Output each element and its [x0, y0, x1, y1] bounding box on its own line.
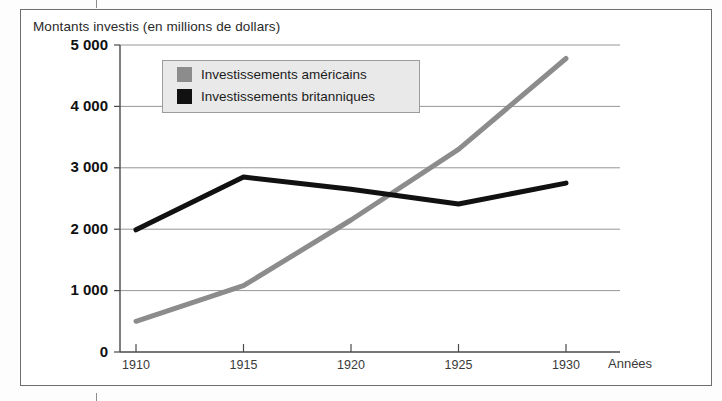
- y-tick-label-1000: 1 000: [28, 281, 108, 298]
- x-tick-label-1915: 1915: [209, 358, 279, 372]
- x-axis-title: Années: [608, 356, 652, 371]
- y-tick-label-3000: 3 000: [28, 158, 108, 175]
- y-tick-marks: [114, 45, 120, 352]
- legend-entry-americains: Investissements américains: [177, 67, 367, 82]
- chart-legend: Investissements américains Investissemen…: [162, 60, 420, 113]
- legend-entry-britanniques: Investissements britanniques: [177, 89, 375, 104]
- x-tick-label-1930: 1930: [531, 358, 601, 372]
- y-tick-label-4000: 4 000: [28, 97, 108, 114]
- y-tick-label-0: 0: [28, 343, 108, 360]
- legend-swatch-americains: [177, 67, 192, 82]
- x-tick-label-1920: 1920: [316, 358, 386, 372]
- legend-swatch-britanniques: [177, 89, 192, 104]
- y-tick-label-2000: 2 000: [28, 220, 108, 237]
- y-tick-label-5000: 5 000: [28, 36, 108, 53]
- legend-label-britanniques: Investissements britanniques: [201, 89, 375, 104]
- legend-label-americains: Investissements américains: [201, 67, 367, 82]
- x-tick-marks: [136, 344, 566, 352]
- chart-figure: Montants investis (en millions de dollar…: [0, 0, 722, 401]
- x-tick-label-1925: 1925: [424, 358, 494, 372]
- x-tick-label-1910: 1910: [101, 358, 171, 372]
